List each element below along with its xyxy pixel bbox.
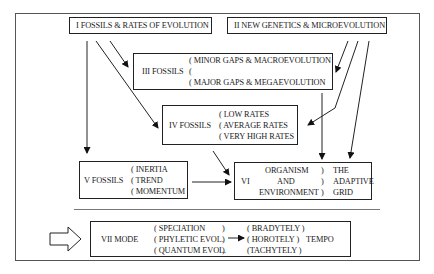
arrow-i-to-iii bbox=[110, 41, 128, 67]
arrow-ii-to-iv bbox=[308, 41, 358, 125]
connector-arrows bbox=[0, 0, 434, 274]
arrow-i-to-iv bbox=[96, 41, 158, 128]
arrow-iv-to-vi bbox=[213, 151, 229, 175]
arrow-ii-to-vi bbox=[350, 41, 369, 158]
arrow-ii-to-iii bbox=[336, 41, 348, 72]
hollow-arrow-icon bbox=[50, 227, 81, 251]
